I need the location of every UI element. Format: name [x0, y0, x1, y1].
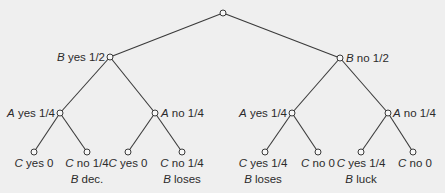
outcome-note: loses: [252, 173, 282, 185]
leaf-label: C no 1/4B dec.: [65, 157, 108, 186]
leaf-label: C yes 0: [109, 157, 148, 170]
leaf-label: C no 0: [301, 157, 335, 170]
label-text: yes 1/4: [247, 107, 287, 119]
leaf-node: [358, 149, 364, 155]
variable: A: [7, 107, 15, 119]
edge: [60, 113, 87, 152]
outcome-note: luck: [353, 173, 377, 185]
label-text: yes 0: [117, 157, 148, 169]
label-b-yes: B yes 1/2: [57, 51, 105, 64]
label-text: no 0: [406, 157, 432, 169]
leaf-node: [315, 149, 321, 155]
root-node: [220, 10, 226, 16]
outcome-note: loses: [171, 173, 201, 185]
label-a-no-2: A no 1/4: [393, 107, 436, 120]
edge: [110, 13, 223, 57]
label-a-yes-1: A yes 1/4: [7, 107, 55, 120]
label-text: yes 1/2: [65, 51, 105, 63]
leaf-label: C yes 1/4B luck: [337, 157, 386, 186]
edge: [340, 58, 388, 113]
leaf-node: [410, 149, 416, 155]
leaf-node: [125, 149, 131, 155]
edge: [292, 58, 340, 113]
leaf-node: [84, 149, 90, 155]
label-text: no 0: [309, 157, 335, 169]
variable: B: [244, 173, 252, 185]
leaf-node: [262, 149, 268, 155]
label-a-yes-2: A yes 1/4: [239, 107, 287, 120]
leaf-label: C yes 1/4B loses: [239, 157, 288, 186]
edge: [128, 113, 155, 152]
outcome-note: dec.: [78, 173, 103, 185]
label-text: no 1/4: [169, 107, 204, 119]
variable: A: [393, 107, 401, 119]
leaf-node: [31, 149, 37, 155]
edge: [292, 113, 318, 152]
label-text: yes 1/4: [247, 157, 287, 169]
label-text: no 1/4: [401, 107, 436, 119]
leaf-label: C no 0: [398, 157, 432, 170]
edge: [110, 57, 155, 113]
leaf-label: C no 1/4B loses: [160, 157, 203, 186]
label-text: no 1/4: [169, 157, 204, 169]
leaf-node: [179, 149, 185, 155]
leaf-label: C yes 0: [15, 157, 54, 170]
node-a-no-2: [385, 110, 391, 116]
variable: B: [346, 52, 354, 64]
node-a-yes-2: [289, 110, 295, 116]
label-text: no 1/2: [354, 52, 389, 64]
label-text: yes 1/4: [345, 157, 385, 169]
node-a-no-1: [152, 110, 158, 116]
label-text: yes 1/4: [15, 107, 55, 119]
edge: [60, 57, 110, 113]
node-b-no: [337, 55, 343, 61]
variable: A: [239, 107, 247, 119]
label-b-no: B no 1/2: [346, 52, 389, 65]
label-text: yes 0: [23, 157, 54, 169]
edge: [223, 13, 340, 58]
label-a-no-1: A no 1/4: [161, 107, 204, 120]
variable: A: [161, 107, 169, 119]
variable: B: [71, 173, 79, 185]
edge: [361, 113, 388, 152]
variable: B: [57, 51, 65, 63]
variable: B: [163, 173, 171, 185]
label-text: no 1/4: [74, 157, 109, 169]
node-a-yes-1: [57, 110, 63, 116]
node-b-yes: [107, 54, 113, 60]
